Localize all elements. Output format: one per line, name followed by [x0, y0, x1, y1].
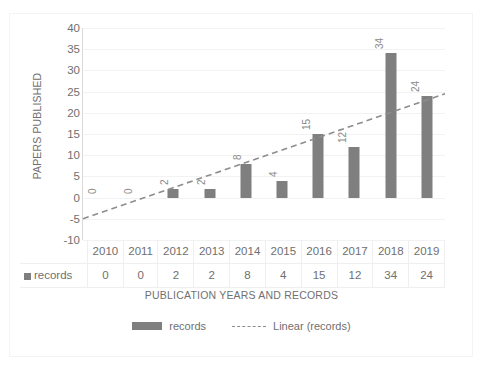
table-header-cell: 2011 — [123, 240, 158, 264]
table-value-cell: 2 — [158, 264, 194, 288]
bar[interactable] — [349, 147, 360, 198]
table-value-cell: 24 — [409, 264, 445, 288]
bar-data-label: 0 — [87, 188, 98, 194]
bar-slot: 34 — [373, 28, 409, 240]
chart-legend: records Linear (records) — [0, 320, 483, 332]
bar-data-label: 2 — [196, 180, 207, 186]
bar-slot: 24 — [409, 28, 445, 240]
bar-swatch-icon — [132, 322, 162, 330]
bar-slot: 0 — [83, 28, 119, 240]
square-marker-icon — [24, 273, 31, 280]
y-axis-tick-label: 25 — [44, 86, 80, 98]
bar[interactable] — [385, 53, 396, 197]
bar-data-label: 34 — [374, 38, 385, 49]
table-header-cell: 2013 — [194, 240, 230, 264]
bar-series-records: 00228415123424 — [83, 28, 445, 240]
bar[interactable] — [204, 189, 215, 197]
y-axis-tick-label: 40 — [44, 22, 80, 34]
chart-container: PAPERS PUBLISHED 4035302520151050-5-10 0… — [0, 0, 483, 368]
x-axis-title: PUBLICATION YEARS AND RECORDS — [0, 289, 483, 301]
table-corner-cell — [20, 240, 88, 264]
bar-slot: 8 — [228, 28, 264, 240]
bar-slot: 4 — [264, 28, 300, 240]
legend-item-label: records — [169, 320, 206, 332]
y-axis-tick-label: -5 — [44, 213, 80, 225]
y-axis-tick-label: 20 — [44, 107, 80, 119]
y-axis-tick-label: 15 — [44, 128, 80, 140]
table-header-cell: 2019 — [409, 240, 445, 264]
bar-slot: 0 — [119, 28, 155, 240]
table-value-cell: 4 — [265, 264, 301, 288]
legend-item-records[interactable]: records — [132, 320, 206, 332]
y-axis-tick-label: 35 — [44, 43, 80, 55]
table-header-cell: 2014 — [230, 240, 266, 264]
table-header-cell: 2016 — [301, 240, 337, 264]
bar[interactable] — [240, 164, 251, 198]
table-value-cell: 0 — [88, 264, 124, 288]
table-value-cell: 2 — [194, 264, 230, 288]
bar[interactable] — [421, 96, 432, 198]
bar-data-label: 8 — [232, 154, 243, 160]
table-row-header: 2010201120122013201420152016201720182019 — [20, 240, 445, 264]
bar-data-label: 15 — [302, 119, 313, 130]
plot-area: 00228415123424 — [83, 28, 445, 240]
y-axis-tick-labels: 4035302520151050-5-10 — [40, 28, 80, 240]
table-header-cell: 2015 — [265, 240, 301, 264]
bar[interactable] — [277, 181, 288, 198]
bar-data-label: 24 — [410, 81, 421, 92]
bar[interactable] — [168, 189, 179, 197]
table-header-cell: 2012 — [158, 240, 194, 264]
table-value-cell: 0 — [123, 264, 158, 288]
bar-data-label: 0 — [124, 188, 135, 194]
bar-slot: 12 — [336, 28, 372, 240]
bar-data-label: 2 — [160, 180, 171, 186]
table-header-cell: 2018 — [373, 240, 409, 264]
y-axis-tick-label: 0 — [44, 192, 80, 204]
chart-data-table: 2010201120122013201420152016201720182019… — [20, 240, 445, 288]
table-value-cell: 8 — [230, 264, 266, 288]
bar-slot: 2 — [192, 28, 228, 240]
y-axis-tick-label: 10 — [44, 149, 80, 161]
dashed-line-swatch-icon — [232, 326, 266, 327]
table-row-records: records 00228415123424 — [20, 264, 445, 288]
y-axis-tick-label: 5 — [44, 170, 80, 182]
table-value-cell: 34 — [373, 264, 409, 288]
table-value-cell: 12 — [337, 264, 373, 288]
bar-data-label: 4 — [268, 171, 279, 177]
bar-slot: 15 — [300, 28, 336, 240]
bar[interactable] — [313, 134, 324, 198]
legend-item-linear-records[interactable]: Linear (records) — [232, 320, 351, 332]
bar-data-label: 12 — [338, 132, 349, 143]
table-header-cell: 2010 — [88, 240, 124, 264]
bar-slot: 2 — [155, 28, 191, 240]
legend-item-label: Linear (records) — [273, 320, 351, 332]
table-row-label-text: records — [34, 269, 72, 281]
table-header-cell: 2017 — [337, 240, 373, 264]
table-row-label: records — [20, 264, 88, 288]
y-axis-tick-label: 30 — [44, 64, 80, 76]
table-value-cell: 15 — [301, 264, 337, 288]
